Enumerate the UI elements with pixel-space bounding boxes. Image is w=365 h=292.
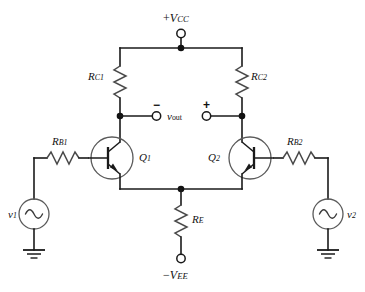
v2-sine-wave-icon: [320, 210, 337, 219]
v1-sine-wave-icon: [26, 210, 43, 219]
rc2-label: RC2: [251, 71, 267, 82]
transistor-q1: [88, 137, 133, 189]
vout-minus-terminal[interactable]: [152, 112, 160, 120]
q2-label: Q2: [208, 152, 220, 163]
q1-collector-lead: [108, 142, 120, 152]
rb2-label: RB2: [287, 136, 303, 147]
v1-label: v1: [8, 209, 17, 220]
vout-plus-sign: +: [203, 99, 210, 111]
rb2-resistor-zigzag: [283, 152, 315, 164]
v2-label: v2: [347, 209, 356, 220]
input-right-branch: [274, 152, 343, 258]
rb1-resistor-zigzag: [47, 152, 79, 164]
re-branch: [175, 189, 187, 263]
rc1-resistor-zigzag: [114, 66, 126, 98]
rc1-branch: [114, 48, 126, 116]
circuit-diagram: +VCC RC1 RC2 − + vout RB1 RB2 Q1 Q2 v1 v…: [0, 0, 365, 292]
rc2-branch: [236, 48, 248, 116]
q2-emitter-arrow: [244, 164, 252, 171]
vcc-label: +VCC: [163, 12, 189, 24]
vcc-terminal-open-circle: [177, 29, 185, 37]
rb1-label: RB1: [52, 136, 68, 147]
q2-collector-lead: [242, 142, 254, 152]
re-label: RE: [192, 214, 204, 225]
top-supply-rail: [120, 45, 242, 52]
q1-emitter-arrow: [110, 164, 118, 171]
rc1-label: RC1: [88, 71, 104, 82]
vout-plus-terminal[interactable]: [202, 112, 210, 120]
vout-minus-sign: −: [153, 99, 160, 111]
rc2-resistor-zigzag: [236, 66, 248, 98]
vee-label: −VEE: [163, 269, 188, 281]
q1-label: Q1: [139, 152, 151, 163]
transistor-q2: [229, 137, 274, 189]
re-resistor-zigzag: [175, 205, 187, 237]
vee-terminal-open-circle: [177, 254, 185, 262]
input-left-branch: [19, 152, 88, 258]
vout-label: vout: [167, 111, 182, 122]
top-rail-junction-dot: [178, 45, 185, 52]
